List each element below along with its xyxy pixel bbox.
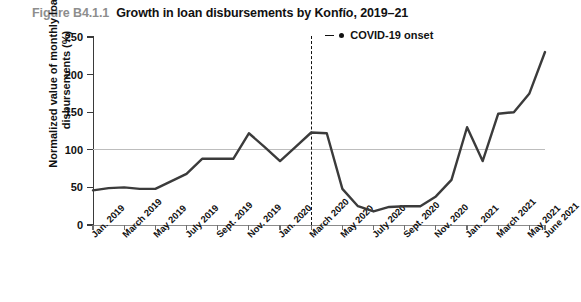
series-line bbox=[93, 52, 545, 211]
